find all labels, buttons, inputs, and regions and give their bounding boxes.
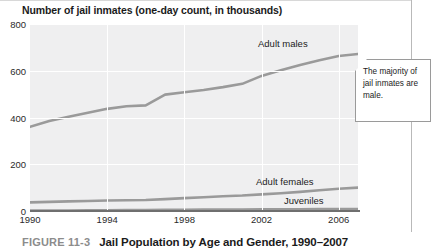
- x-tick-label: 1990: [19, 214, 40, 225]
- y-tick-label: 600: [10, 65, 26, 76]
- x-tick-label: 2002: [251, 214, 272, 225]
- page-rule-top: [0, 0, 412, 1]
- y-tick-label: 200: [10, 159, 26, 170]
- figure-title: Jail Population by Age and Gender, 1990–…: [99, 236, 348, 248]
- series-label-juveniles: Juveniles: [284, 195, 324, 206]
- gridline-horizontal: [30, 24, 358, 25]
- gridline-horizontal: [30, 118, 358, 119]
- figure-container: Number of jail inmates (one-day count, i…: [0, 0, 433, 249]
- x-tick-label: 2006: [328, 214, 349, 225]
- figure-caption: FIGURE 11-3Jail Population by Age and Ge…: [22, 232, 348, 249]
- y-axis-tick-labels: 0200400600800: [0, 0, 26, 249]
- figure-number: FIGURE 11-3: [22, 236, 90, 248]
- y-tick-label: 800: [10, 19, 26, 30]
- callout-text: The majority of jail inmates are male.: [363, 66, 425, 102]
- x-axis-line: [30, 210, 360, 212]
- chart-title: Number of jail inmates (one-day count, i…: [22, 4, 282, 16]
- gridline-horizontal: [30, 71, 358, 72]
- series-label-adult-females: Adult females: [256, 176, 314, 187]
- x-tick-label: 1994: [97, 214, 118, 225]
- series-label-adult-males: Adult males: [258, 38, 308, 49]
- y-tick-label: 400: [10, 112, 26, 123]
- x-tick-label: 1998: [174, 214, 195, 225]
- series-line: [30, 54, 358, 127]
- gridline-horizontal: [30, 164, 358, 165]
